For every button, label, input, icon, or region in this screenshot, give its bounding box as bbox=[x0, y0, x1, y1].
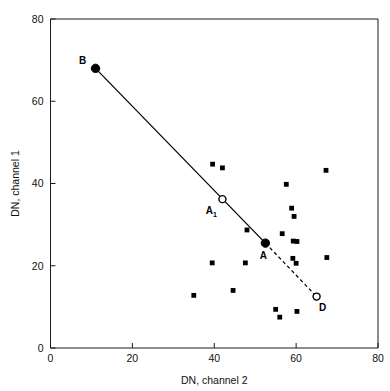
endpoint-marker-A1 bbox=[219, 196, 226, 203]
x-tick-label-80: 80 bbox=[372, 352, 384, 364]
data-point-marker bbox=[284, 182, 289, 187]
endpoint-labels: BA1AD bbox=[79, 55, 326, 312]
data-point-marker bbox=[290, 256, 295, 261]
data-point-marker bbox=[294, 261, 299, 266]
data-point-marker bbox=[243, 260, 248, 265]
data-point-marker bbox=[324, 168, 329, 173]
mixing-line-solid-segment bbox=[96, 68, 266, 243]
axis-titles: DN, channel 2DN, channel 1 bbox=[9, 150, 248, 386]
endpoint-label-A1: A bbox=[206, 205, 213, 216]
endpoint-marker-D bbox=[313, 293, 320, 300]
data-point-marker bbox=[245, 228, 250, 233]
data-point-marker bbox=[273, 307, 278, 312]
scatter-points bbox=[191, 162, 329, 320]
endpoint-label-B: B bbox=[79, 55, 86, 66]
data-point-marker bbox=[220, 165, 225, 170]
data-point-marker bbox=[289, 206, 294, 211]
data-point-marker bbox=[280, 231, 285, 236]
y-tick-label-0: 0 bbox=[38, 342, 44, 354]
y-tick-label-60: 60 bbox=[32, 95, 44, 107]
data-point-marker bbox=[210, 260, 215, 265]
endpoint-label-D: D bbox=[319, 302, 326, 313]
mixing-line-dashed-segment bbox=[265, 243, 316, 296]
endpoint-marker-B bbox=[91, 64, 99, 72]
endpoint-marker-A bbox=[261, 239, 269, 247]
x-axis-title: DN, channel 2 bbox=[181, 374, 248, 386]
x-tick-label-20: 20 bbox=[127, 352, 139, 364]
plot-canvas: 020406080020406080 DN, channel 2DN, chan… bbox=[0, 0, 390, 391]
y-axis-title: DN, channel 1 bbox=[9, 150, 21, 217]
x-tick-label-60: 60 bbox=[290, 352, 302, 364]
scatter-plot-figure: 020406080020406080 DN, channel 2DN, chan… bbox=[0, 0, 390, 391]
endpoint-label-A: A bbox=[260, 250, 267, 261]
y-tick-label-80: 80 bbox=[32, 13, 44, 25]
endpoint-label-subscript-A1: 1 bbox=[213, 211, 217, 218]
x-tick-label-0: 0 bbox=[48, 352, 54, 364]
data-point-marker bbox=[324, 255, 329, 260]
mixing-line bbox=[96, 68, 317, 296]
data-point-marker bbox=[191, 293, 196, 298]
data-point-marker bbox=[231, 288, 236, 293]
data-point-marker bbox=[295, 309, 300, 314]
x-tick-label-40: 40 bbox=[208, 352, 220, 364]
data-point-marker bbox=[295, 239, 300, 244]
y-tick-label-40: 40 bbox=[32, 177, 44, 189]
data-point-marker bbox=[277, 315, 282, 320]
y-tick-label-20: 20 bbox=[32, 260, 44, 272]
data-point-marker bbox=[292, 214, 297, 219]
data-point-marker bbox=[210, 162, 215, 167]
